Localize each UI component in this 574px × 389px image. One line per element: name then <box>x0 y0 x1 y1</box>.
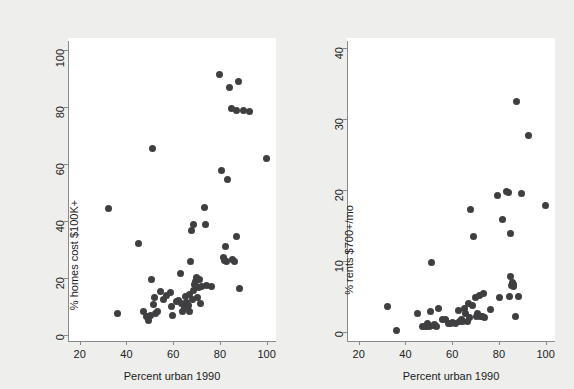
data-point <box>201 204 208 211</box>
data-point <box>208 283 215 290</box>
x-tick-label-left-80: 80 <box>200 348 240 360</box>
y-tick-label-left-60: 60 <box>54 163 66 193</box>
data-point <box>384 303 391 310</box>
data-point <box>218 167 225 174</box>
data-point <box>224 176 231 183</box>
x-tick-label-right-80: 80 <box>479 348 519 360</box>
data-point <box>188 227 195 234</box>
x-tick-label-right-20: 20 <box>339 348 379 360</box>
y-tick-label-right-30: 30 <box>333 118 345 148</box>
x-tick-left-40 <box>126 341 127 345</box>
x-axis-title-left: Percent urban 1990 <box>68 370 276 382</box>
data-point <box>513 98 520 105</box>
x-tick-label-left-100: 100 <box>247 348 287 360</box>
y-tick-label-left-80: 80 <box>54 106 66 136</box>
y-axis-title-right: % rents $700+/mo <box>343 190 355 310</box>
data-point <box>196 276 203 283</box>
x-tick-right-100 <box>546 341 547 345</box>
data-point <box>427 308 434 315</box>
x-axis-line-right <box>347 341 555 342</box>
x-tick-left-60 <box>173 341 174 345</box>
y-tick-label-left-20: 20 <box>54 277 66 307</box>
data-point <box>135 240 142 247</box>
data-point <box>512 313 519 320</box>
x-tick-right-60 <box>452 341 453 345</box>
y-tick-label-right-40: 40 <box>333 47 345 77</box>
x-axis-title-right: Percent urban 1990 <box>347 370 555 382</box>
x-tick-right-40 <box>405 341 406 345</box>
y-axis-title-left: % homes cost $100K+ <box>68 190 80 320</box>
data-point <box>167 289 174 296</box>
data-point <box>496 294 503 301</box>
data-point <box>435 305 442 312</box>
data-point <box>226 84 233 91</box>
x-tick-left-100 <box>267 341 268 345</box>
x-tick-label-right-100: 100 <box>526 348 566 360</box>
chart-panel-right: 01020304020406080100 % rents $700+/mo Pe… <box>287 0 574 389</box>
data-point <box>197 300 204 307</box>
data-point <box>518 190 525 197</box>
data-point <box>177 270 184 277</box>
data-point <box>222 243 229 250</box>
x-tick-label-right-40: 40 <box>385 348 425 360</box>
x-tick-left-80 <box>220 341 221 345</box>
x-tick-right-20 <box>359 341 360 345</box>
y-tick-label-left-40: 40 <box>54 220 66 250</box>
y-tick-label-left-100: 100 <box>54 49 66 79</box>
data-point <box>169 312 176 319</box>
data-point <box>393 327 400 334</box>
x-tick-right-80 <box>499 341 500 345</box>
x-tick-left-20 <box>80 341 81 345</box>
x-tick-label-left-40: 40 <box>106 348 146 360</box>
data-point <box>233 233 240 240</box>
data-point <box>246 108 253 115</box>
data-point <box>487 306 494 313</box>
x-tick-label-left-60: 60 <box>153 348 193 360</box>
scatter-figure: 02040608010020406080100 % homes cost $10… <box>0 0 574 389</box>
data-point <box>433 323 440 330</box>
plot-area-left <box>68 38 276 342</box>
data-point <box>202 221 209 228</box>
x-axis-line-left <box>68 341 276 342</box>
data-point <box>469 302 476 309</box>
x-tick-label-left-20: 20 <box>60 348 100 360</box>
data-point <box>480 290 487 297</box>
x-tick-label-right-60: 60 <box>432 348 472 360</box>
chart-panel-left: 02040608010020406080100 % homes cost $10… <box>0 0 287 389</box>
data-point <box>507 230 514 237</box>
data-point <box>235 78 242 85</box>
data-point <box>150 301 157 308</box>
